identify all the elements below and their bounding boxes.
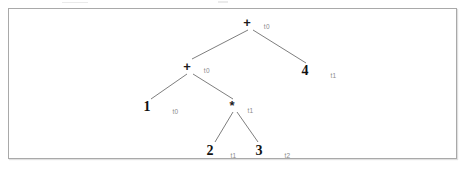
node-symbol-leaf-four: 4 (301, 63, 308, 78)
node-symbol-root-plus: + (243, 15, 251, 30)
tree-node-leaf-four: 4t1 (301, 62, 314, 78)
node-register-inner-plus: t0 (204, 67, 210, 74)
node-register-times: t1 (248, 107, 254, 114)
tree-edge-inner-to-times (193, 74, 233, 99)
tree-edge-times-to-three (237, 112, 258, 142)
node-symbol-leaf-two: 2 (206, 143, 213, 158)
tree-node-leaf-two: 2t1 (206, 142, 219, 158)
node-register-leaf-three: t2 (284, 152, 290, 159)
node-symbol-leaf-one: 1 (143, 99, 150, 114)
node-symbol-leaf-three: 3 (255, 143, 262, 158)
tree-edges (0, 0, 473, 169)
node-register-leaf-four: t1 (330, 72, 336, 79)
tree-edge-root-to-four (253, 30, 306, 63)
tree-edge-inner-to-one (151, 74, 187, 99)
node-register-leaf-one: t0 (172, 108, 178, 115)
tree-node-times: *t1 (229, 97, 240, 113)
tree-node-inner-plus: +t0 (183, 58, 197, 74)
tree-edge-root-to-inner-plus (192, 30, 248, 59)
tree-edge-times-to-two (215, 112, 233, 142)
node-symbol-inner-plus: + (183, 59, 191, 74)
node-symbol-times: * (229, 98, 234, 113)
tree-node-root-plus: +t0 (243, 14, 257, 30)
tree-node-leaf-three: 3t2 (255, 142, 268, 158)
scanned-figure: +t0+t04t11t0*t12t13t2 (0, 0, 473, 169)
node-register-root-plus: t0 (264, 23, 270, 30)
tree-node-leaf-one: 1t0 (143, 98, 156, 114)
node-register-leaf-two: t1 (230, 152, 236, 159)
